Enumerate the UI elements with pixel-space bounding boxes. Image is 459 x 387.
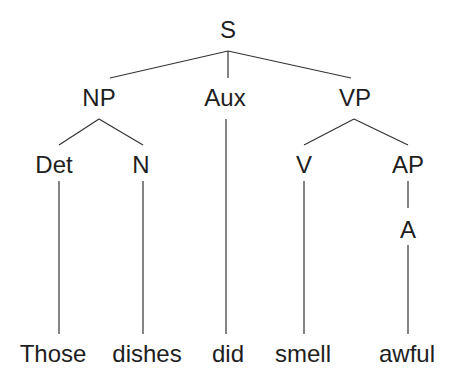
word-smell: smell bbox=[275, 342, 331, 366]
edge-vp-v bbox=[304, 119, 354, 145]
node-a: A bbox=[400, 218, 416, 242]
edge-np-n bbox=[99, 119, 143, 145]
edge-s-vp bbox=[228, 51, 351, 78]
word-awful: awful bbox=[379, 342, 435, 366]
node-n: N bbox=[132, 153, 149, 177]
node-vp: VP bbox=[339, 86, 371, 110]
node-v: V bbox=[296, 153, 312, 177]
edge-np-det bbox=[59, 119, 99, 145]
word-those: Those bbox=[20, 342, 87, 366]
node-s: S bbox=[220, 18, 236, 42]
edge-s-np bbox=[110, 51, 228, 78]
word-did: did bbox=[212, 342, 244, 366]
node-np: NP bbox=[82, 86, 115, 110]
node-aux: Aux bbox=[204, 86, 245, 110]
word-dishes: dishes bbox=[112, 342, 181, 366]
tree-edges bbox=[0, 0, 459, 387]
edge-vp-ap bbox=[354, 119, 408, 145]
node-det: Det bbox=[35, 153, 72, 177]
node-ap: AP bbox=[392, 153, 424, 177]
